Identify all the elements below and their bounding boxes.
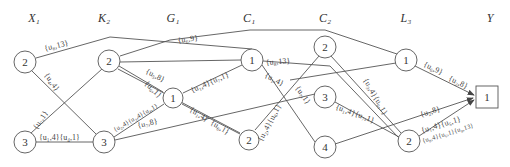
edge-label: {u₂,8} <box>419 104 441 119</box>
edge-label: {u₁,4} <box>263 71 285 88</box>
node-c1-2: 2 <box>239 130 259 150</box>
edge-label: {u₁,4}{u₇,1} <box>334 102 376 125</box>
node-k2-2: 2 <box>98 50 120 72</box>
svg-text:2: 2 <box>106 55 112 67</box>
edge-x2-c1 <box>36 37 252 58</box>
svg-text:1: 1 <box>403 54 409 66</box>
network-diagram: X₁ K₂ G₁ C₁ C₂ L₃ Y 2 3 2 3 1 1 2 2 3 4 … <box>0 0 510 167</box>
svg-text:3: 3 <box>22 136 28 148</box>
svg-text:4: 4 <box>322 141 328 153</box>
node-x1-3: 3 <box>14 131 36 153</box>
edge-label: {u₂,8} <box>447 74 469 91</box>
node-c2-3: 3 <box>314 86 336 108</box>
edge-label: {u₈,13} <box>266 56 291 67</box>
edge-label: {u₈,13} <box>43 38 69 53</box>
column-header-g1: G₁ <box>167 11 180 25</box>
svg-text:3: 3 <box>322 91 328 103</box>
svg-text:1: 1 <box>484 91 490 103</box>
node-c1-1: 1 <box>241 49 263 71</box>
svg-text:1: 1 <box>249 54 255 66</box>
node-y-1: 1 <box>476 86 498 108</box>
column-headers: X₁ K₂ G₁ C₁ C₂ L₃ Y <box>27 11 494 25</box>
edge-label: {u₆,1} <box>209 118 231 137</box>
column-header-k2: K₂ <box>97 11 110 25</box>
svg-text:2: 2 <box>246 134 252 146</box>
diagram-svg: X₁ K₂ G₁ C₁ C₂ L₃ Y 2 3 2 3 1 1 2 2 3 4 … <box>0 0 510 167</box>
node-c2-2: 2 <box>314 36 336 58</box>
edge-label: {u₄,4} <box>42 71 61 93</box>
node-x1-2: 2 <box>14 51 36 73</box>
column-header-c2: C₂ <box>319 11 331 25</box>
node-g1-1: 1 <box>163 88 183 108</box>
edge-k2-c1 <box>120 60 241 62</box>
node-l3-1: 1 <box>395 49 417 71</box>
edge-label: {u₁,4}{u₇,1} <box>189 70 230 95</box>
node-c2-4: 4 <box>314 136 336 158</box>
svg-text:1: 1 <box>170 92 176 104</box>
svg-text:2: 2 <box>406 135 412 147</box>
column-header-c1: C₁ <box>243 11 255 25</box>
edge-label: {u₆,9} <box>177 33 199 45</box>
node-k2-3: 3 <box>93 131 115 153</box>
edge-label: {u₆,9} <box>422 60 444 77</box>
svg-text:2: 2 <box>322 41 328 53</box>
edges <box>31 30 474 144</box>
node-l3-2: 2 <box>398 130 420 152</box>
column-header-y: Y <box>487 11 495 25</box>
edge-label: {u₃,4}{u₆,1} <box>361 77 389 117</box>
edge-label: {u₇,1} <box>31 109 50 131</box>
edge-label: {u₂,4}{u₆,1} <box>256 102 283 143</box>
edge-c12-c22 <box>255 56 319 130</box>
column-header-x1: X₁ <box>27 11 40 25</box>
svg-text:2: 2 <box>22 56 28 68</box>
column-header-l3: L₃ <box>400 11 412 25</box>
edge-label: {u₁,4}{u₄,1} <box>39 133 80 142</box>
svg-text:3: 3 <box>101 136 107 148</box>
